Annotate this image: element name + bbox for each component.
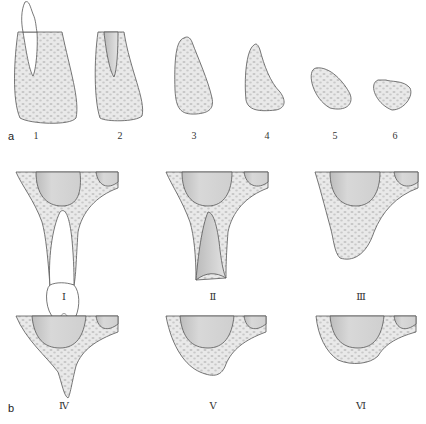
- stage-a3-label: 3: [179, 130, 209, 141]
- stage-b2-socket: [166, 172, 268, 280]
- stage-a6-label: 6: [380, 130, 410, 141]
- stage-b4-knife-edge: [16, 316, 118, 398]
- stage-a3-ridge: [175, 37, 213, 114]
- stage-b6-label: Ⅵ: [346, 400, 376, 411]
- stage-a2-extraction-socket: [95, 32, 142, 121]
- stage-a5-low-ridge: [311, 68, 351, 109]
- stage-b5-label: Ⅴ: [198, 400, 228, 411]
- stage-b6-depressed-ridge: [316, 316, 416, 363]
- stage-b3-label: Ⅲ: [346, 291, 376, 302]
- stage-a1-label: 1: [21, 130, 51, 141]
- stage-a6-flat-ridge: [374, 80, 411, 110]
- stage-b5-low-ridge: [166, 316, 266, 375]
- stage-a5-label: 5: [320, 130, 350, 141]
- ridge-resorption-figure: [0, 0, 426, 424]
- panel-a-label: a: [8, 130, 14, 142]
- stage-b1-label: Ⅰ: [49, 291, 79, 302]
- panel-b-label: b: [8, 402, 14, 414]
- stage-a4-label: 4: [252, 130, 282, 141]
- stage-b4-label: Ⅳ: [49, 400, 79, 411]
- stage-a1-tooth-in-alveolus: [15, 2, 77, 124]
- stage-a4-knife-edge-ridge: [245, 44, 284, 111]
- stage-b3-rounded-ridge: [315, 172, 418, 259]
- stage-b2-label: Ⅱ: [198, 291, 228, 302]
- stage-a2-label: 2: [105, 130, 135, 141]
